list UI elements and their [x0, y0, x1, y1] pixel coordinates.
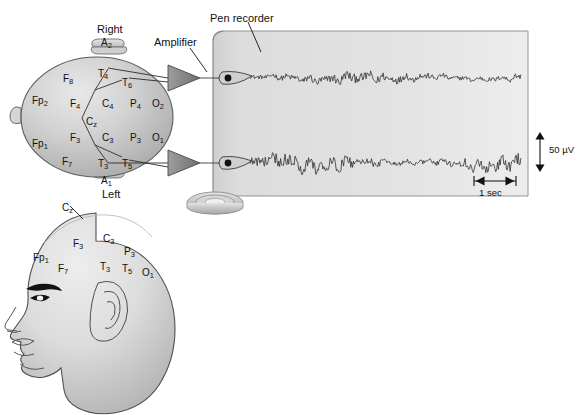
- electrode-label-top-f8: F8: [63, 74, 73, 84]
- amplifier-1: [168, 65, 200, 91]
- electrode-label-top-t6: T6: [122, 78, 132, 88]
- electrode-label-top-fp2: Fp2: [32, 96, 48, 106]
- electrode-label-side-t3: T3: [100, 262, 110, 272]
- electrode-label-side-o1: O1: [142, 268, 154, 278]
- label-left: Left: [102, 189, 120, 200]
- nose-marker: [10, 107, 21, 124]
- electrode-subscript: 3: [109, 136, 113, 145]
- head-outline-side: [10, 213, 175, 414]
- electrode-label-top-f4: F4: [70, 99, 80, 109]
- electrode-label-top-p4: P4: [130, 99, 141, 109]
- electrode-subscript: 7: [64, 267, 68, 276]
- electrode-subscript: z: [93, 120, 97, 129]
- electrode-base: P: [124, 246, 131, 257]
- electrode-base: O: [152, 132, 160, 143]
- figure-graphics: [0, 0, 587, 415]
- electrode-label-side-c3: C3: [103, 234, 114, 244]
- electrode-subscript: 3: [76, 136, 80, 145]
- electrode-label-top-fp1: Fp1: [32, 139, 48, 149]
- electrode-subscript: 3: [137, 136, 141, 145]
- electrode-subscript: 1: [44, 142, 48, 151]
- head-side-view-graphic: [5, 206, 175, 414]
- electrode-subscript: 1: [150, 271, 154, 280]
- amplitude-scale-bar: [536, 133, 543, 171]
- electrode-subscript: 6: [128, 81, 132, 90]
- electrode-subscript: 5: [128, 162, 132, 171]
- recorder-paper: [213, 31, 528, 196]
- electrode-label-top-c3: C3: [102, 133, 113, 143]
- electrode-base: Fp: [33, 252, 45, 263]
- electrode-subscript: 2: [160, 102, 164, 111]
- label-amplifier: Amplifier: [154, 37, 197, 48]
- label-right: Right: [97, 24, 123, 35]
- label-electrode-a1: A1: [101, 176, 112, 186]
- electrode-subscript: 8: [69, 77, 73, 86]
- electrode-label-top-f7: F7: [62, 157, 72, 167]
- electrode-label-side-p3: P3: [124, 247, 135, 257]
- head-top-view-graphic: [10, 39, 173, 178]
- electrode-base: O: [142, 267, 150, 278]
- electrode-subscript: 3: [131, 250, 135, 259]
- electrode-subscript: z: [69, 206, 73, 215]
- electrode-label-top-f3: F3: [70, 133, 80, 143]
- electrode-base: Fp: [32, 138, 44, 149]
- label-pen-recorder: Pen recorder: [210, 13, 274, 24]
- leader-amplifier: [190, 48, 207, 72]
- electrode-label-top-cz: Cz: [86, 117, 97, 127]
- label-time-scale: 1 sec: [479, 188, 502, 198]
- electrode-subscript: 4: [104, 72, 108, 81]
- electrode-base: O: [152, 98, 160, 109]
- figure-root: Pen recorder Amplifier Right Left A2 A1 …: [0, 0, 587, 415]
- electrode-label-top-o2: O2: [152, 99, 164, 109]
- electrode-base: P: [130, 132, 137, 143]
- label-electrode-a2: A2: [101, 38, 112, 48]
- electrode-subscript: 2: [44, 99, 48, 108]
- electrode-label-side-fp1: Fp1: [33, 253, 49, 263]
- electrode-label-top-c4: C4: [102, 99, 113, 109]
- recorder-paper-group: [213, 31, 528, 196]
- electrode-subscript: 3: [110, 237, 114, 246]
- electrode-subscript: 4: [137, 102, 141, 111]
- electrode-label-side-f3: F3: [73, 239, 83, 249]
- electrode-label-top-t3: T3: [98, 159, 108, 169]
- electrode-label-top-t5: T5: [122, 159, 132, 169]
- electrode-subscript: 1: [45, 256, 49, 265]
- electrode-subscript: 3: [79, 242, 83, 251]
- electrode-subscript: 3: [106, 265, 110, 274]
- label-amplitude-scale: 50 µV: [549, 145, 574, 155]
- electrode-label-top-p3: P3: [130, 133, 141, 143]
- electrode-subscript: 4: [76, 102, 80, 111]
- electrode-subscript: 7: [68, 160, 72, 169]
- electrode-label-side-f7: F7: [58, 264, 68, 274]
- electrode-subscript: 4: [109, 102, 113, 111]
- paper-roll: [187, 192, 243, 214]
- electrode-subscript: 3: [104, 162, 108, 171]
- electrode-subscript: 5: [128, 267, 132, 276]
- electrode-subscript: 1: [160, 136, 164, 145]
- electrode-label-side-t5: T5: [122, 264, 132, 274]
- electrode-base: Fp: [32, 95, 44, 106]
- amplifier-2: [168, 150, 200, 176]
- electrode-label-side-cz: Cz: [62, 203, 73, 213]
- electrode-base: P: [130, 98, 137, 109]
- electrode-label-top-o1: O1: [152, 133, 164, 143]
- electrode-label-top-t4: T4: [98, 69, 108, 79]
